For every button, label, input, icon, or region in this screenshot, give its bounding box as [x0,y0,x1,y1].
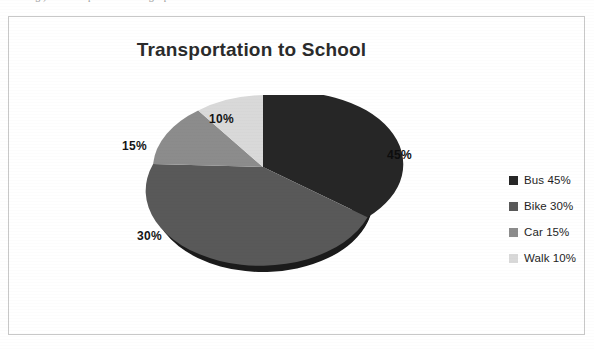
chart-frame: Transportation to School [8,16,585,335]
legend-item-walk[interactable]: Walk 10% [509,245,589,271]
legend-swatch-icon [509,254,518,263]
legend-swatch-icon [509,202,518,211]
legend-item-bike[interactable]: Bike 30% [509,193,589,219]
pie-chart [81,95,445,300]
legend-swatch-icon [509,176,518,185]
chart-legend: Bus 45% Bike 30% Car 15% Walk 10% [509,167,589,271]
legend-item-label: Bike 30% [524,200,573,212]
legend-item-car[interactable]: Car 15% [509,219,589,245]
cutoff-body-text: according.). An example of this using a … [0,0,420,5]
legend-item-label: Walk 10% [524,252,576,264]
legend-swatch-icon [509,228,518,237]
pie-slices-top [146,95,404,266]
chart-title: Transportation to School [9,39,584,61]
legend-item-label: Bus 45% [524,174,571,186]
pie-data-label-walk: 10% [209,112,234,126]
pie-data-label-bus: 45% [387,148,412,162]
pie-chart-svg [81,95,445,300]
legend-item-label: Car 15% [524,226,569,238]
legend-item-bus[interactable]: Bus 45% [509,167,589,193]
pie-data-label-bike: 30% [137,229,162,243]
pie-data-label-car: 15% [122,139,147,153]
